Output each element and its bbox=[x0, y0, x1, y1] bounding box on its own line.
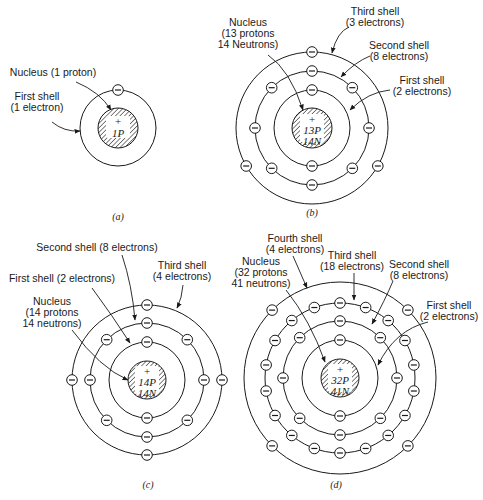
electron-icon bbox=[403, 441, 414, 452]
electron-icon bbox=[294, 332, 305, 343]
nucleus-neutrons: 41N bbox=[331, 385, 350, 397]
electron-icon bbox=[278, 373, 289, 384]
electron-icon bbox=[294, 413, 305, 424]
electron-icon bbox=[142, 432, 153, 443]
nucleus: +1P bbox=[98, 108, 138, 148]
electron-icon bbox=[375, 332, 386, 343]
electron-icon bbox=[286, 315, 297, 326]
electron-icon bbox=[383, 315, 394, 326]
electron-icon bbox=[400, 335, 411, 346]
electron-icon bbox=[142, 318, 153, 329]
electron-icon bbox=[261, 386, 272, 397]
electron-icon bbox=[113, 85, 124, 96]
callout-label: Second shell(8 electrons) bbox=[389, 258, 449, 281]
electron-icon bbox=[403, 305, 414, 316]
electron-icon bbox=[266, 163, 277, 174]
nucleus-charge: + bbox=[115, 115, 121, 127]
atomic-structure-figure: +1PNucleus (1 proton)First shell(1 elect… bbox=[0, 0, 483, 500]
callout-label: Nucleus (1 proton) bbox=[10, 66, 96, 78]
electron-icon bbox=[309, 302, 320, 313]
electron-icon bbox=[307, 47, 318, 58]
electron-icon bbox=[101, 415, 112, 426]
electron-icon bbox=[270, 335, 281, 346]
panel-caption: (c) bbox=[142, 479, 154, 491]
nucleus-neutrons: 14N bbox=[138, 387, 157, 399]
callout-label: Third shell(4 electrons) bbox=[153, 259, 211, 282]
electron-icon bbox=[182, 415, 193, 426]
callout-label: Second shell(8 electrons) bbox=[369, 39, 429, 62]
electron-icon bbox=[85, 375, 96, 386]
leader-arrow bbox=[332, 27, 349, 53]
electron-icon bbox=[392, 373, 403, 384]
callout-label: Nucleus(32 protons41 neutrons) bbox=[232, 255, 291, 289]
nucleus: +32P41N bbox=[321, 359, 359, 397]
electron-icon bbox=[261, 360, 272, 371]
electron-icon bbox=[335, 335, 346, 346]
electron-icon bbox=[67, 375, 78, 386]
electron-icon bbox=[199, 375, 210, 386]
callout-label: First shell(2 electrons) bbox=[420, 299, 478, 322]
electron-icon bbox=[347, 163, 358, 174]
panel-a: +1PNucleus (1 proton)First shell(1 elect… bbox=[10, 66, 156, 223]
bohr-model-diagrams: +1PNucleus (1 proton)First shell(1 elect… bbox=[0, 0, 483, 500]
electron-icon bbox=[217, 375, 228, 386]
nucleus: +13P14N bbox=[292, 108, 332, 148]
electron-icon bbox=[335, 448, 346, 459]
electron-icon bbox=[142, 413, 153, 424]
electron-icon bbox=[383, 430, 394, 441]
electron-icon bbox=[307, 66, 318, 77]
leader-arrow bbox=[52, 122, 80, 131]
leader-arrow bbox=[350, 90, 390, 110]
electron-icon bbox=[309, 443, 320, 454]
electron-icon bbox=[142, 300, 153, 311]
electron-icon bbox=[409, 386, 420, 397]
leader-arrow bbox=[293, 256, 307, 288]
electron-icon bbox=[409, 360, 420, 371]
electron-icon bbox=[335, 411, 346, 422]
panel-b: +13P14NNucleus(13 protons14 Neutrons)Thi… bbox=[218, 5, 452, 219]
electron-icon bbox=[307, 180, 318, 191]
callout-label: Second shell (8 electrons) bbox=[36, 241, 157, 253]
leader-arrow bbox=[177, 285, 183, 308]
leader-arrow bbox=[72, 330, 128, 380]
electron-icon bbox=[360, 443, 371, 454]
panel-caption: (d) bbox=[330, 479, 342, 491]
electron-icon bbox=[142, 450, 153, 461]
nucleus-protons: 1P bbox=[112, 127, 125, 139]
callout-label: Third shell(18 electrons) bbox=[320, 249, 384, 272]
electron-icon bbox=[267, 305, 278, 316]
panel-caption: (b) bbox=[306, 207, 318, 219]
electron-icon bbox=[307, 85, 318, 96]
callout-label: First shell (2 electrons) bbox=[9, 272, 115, 284]
electron-icon bbox=[270, 410, 281, 421]
panel-c: +14P14NSecond shell (8 electrons)First s… bbox=[9, 241, 227, 491]
nucleus: +14P14N bbox=[128, 361, 166, 399]
electron-icon bbox=[335, 430, 346, 441]
panel-d: +32P41NFourth shell(4 electrons)Nucleus(… bbox=[232, 232, 479, 491]
callout-label: First shell(2 electrons) bbox=[393, 74, 451, 97]
electron-icon bbox=[241, 161, 252, 172]
electron-icon bbox=[307, 161, 318, 172]
electron-icon bbox=[182, 334, 193, 345]
panel-caption: (a) bbox=[112, 211, 124, 223]
electron-icon bbox=[360, 302, 371, 313]
electron-icon bbox=[142, 337, 153, 348]
callout-label: Nucleus(14 protons14 neutrons) bbox=[23, 295, 82, 329]
electron-icon bbox=[101, 334, 112, 345]
callout-label: Third shell(3 electrons) bbox=[346, 5, 404, 28]
electron-icon bbox=[373, 161, 384, 172]
electron-icon bbox=[400, 410, 411, 421]
electron-icon bbox=[364, 123, 375, 134]
callout-label: Fourth shell(4 electrons) bbox=[266, 232, 324, 255]
leader-arrow bbox=[76, 82, 111, 110]
callout-label: Nucleus(13 protons14 Neutrons) bbox=[218, 16, 279, 50]
electron-icon bbox=[335, 298, 346, 309]
leader-arrow bbox=[92, 288, 130, 343]
electron-icon bbox=[335, 316, 346, 327]
electron-icon bbox=[375, 413, 386, 424]
electron-icon bbox=[266, 82, 277, 93]
leader-arrow bbox=[122, 255, 135, 320]
nucleus-neutrons: 14N bbox=[303, 135, 322, 147]
callout-label: First shell(1 electron) bbox=[10, 90, 63, 113]
electron-icon bbox=[347, 82, 358, 93]
